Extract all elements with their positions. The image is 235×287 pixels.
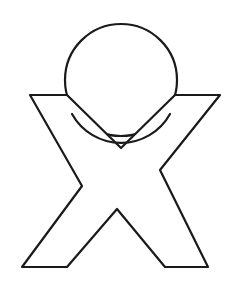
- figure-illustration: [0, 0, 235, 287]
- drawing-canvas: Stylized figure line drawing Black outli…: [0, 0, 235, 287]
